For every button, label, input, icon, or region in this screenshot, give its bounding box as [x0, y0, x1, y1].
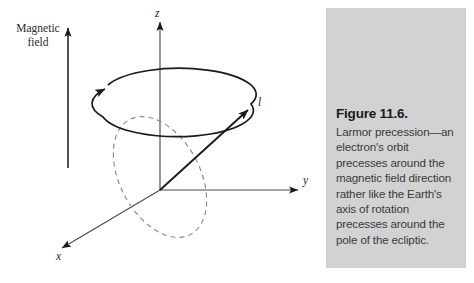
diagram-area: Magnetic field z y x l — [0, 0, 326, 283]
z-axis-label: z — [155, 7, 159, 21]
magnetic-field-label: Magnetic field — [6, 22, 70, 49]
caption-panel: Figure 11.6. Larmor precession—an electr… — [326, 8, 466, 268]
caption-body: Larmor precession—an electron's orbit pr… — [336, 124, 460, 247]
precession-cone-ellipse — [92, 68, 256, 136]
caption-title: Figure 11.6. — [336, 106, 460, 123]
angular-momentum-label: l — [258, 96, 261, 110]
angular-momentum-vector — [160, 110, 248, 190]
figure-11-6: Magnetic field z y x l Figure 11.6. Larm… — [0, 0, 474, 283]
caption-inner: Figure 11.6. Larmor precession—an electr… — [336, 106, 460, 247]
x-axis — [62, 190, 160, 248]
x-axis-label: x — [56, 250, 61, 264]
y-axis-label: y — [303, 174, 308, 188]
